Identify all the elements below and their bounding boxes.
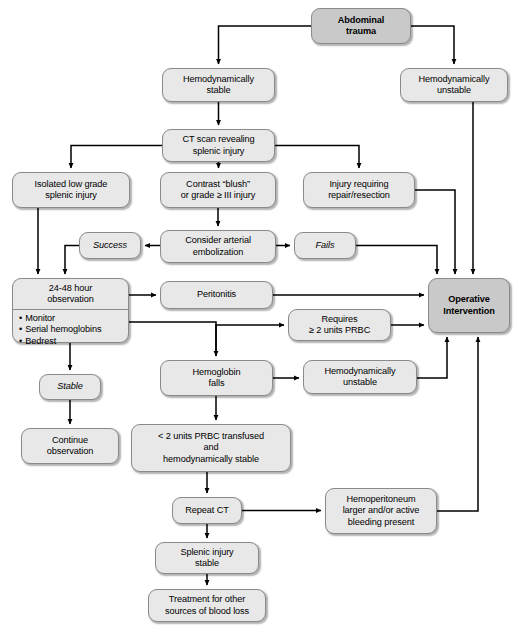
node-ct-scan[interactable]: CT scan revealing splenic injury: [162, 129, 275, 162]
node-repeat-ct[interactable]: Repeat CT: [172, 497, 242, 524]
node-contrast-blush[interactable]: Contrast “blush” or grade ≥ III injury: [160, 172, 276, 208]
node-consider-embolization[interactable]: Consider arterial embolization: [160, 230, 276, 263]
node-peritonitis[interactable]: Peritonitis: [160, 281, 273, 309]
node-stable-label: Stable: [57, 381, 82, 392]
node-hemodynamically-unstable-lower-label: Hemodynamically unstable: [324, 366, 395, 389]
edge-success-to-observation: [65, 246, 79, 275]
edge-trauma-to-stable: [219, 26, 312, 64]
node-hemoperitoneum[interactable]: Hemoperitoneum larger and/or active blee…: [325, 488, 437, 534]
bullet-item: Serial hemoglobins: [19, 324, 124, 335]
node-splenic-injury-stable-label: Splenic injury stable: [180, 547, 233, 570]
node-isolated-low-grade-label: Isolated low grade splenic injury: [35, 179, 108, 202]
node-fails-label: Fails: [316, 240, 335, 251]
node-fails[interactable]: Fails: [294, 232, 356, 259]
node-repeat-ct-label: Repeat CT: [185, 505, 229, 516]
edge-unstable-lower-to-operative: [417, 337, 447, 378]
flowchart-canvas: Abdominal traumaHemodynamically stableHe…: [0, 0, 520, 630]
node-requires-2-units[interactable]: Requires ≥ 2 units PRBC: [288, 309, 391, 341]
node-less-than-2-units-label: < 2 units PRBC transfused and hemodynami…: [158, 431, 264, 465]
node-consider-embolization-label: Consider arterial embolization: [185, 235, 251, 258]
node-hemoperitoneum-label: Hemoperitoneum larger and/or active blee…: [343, 494, 420, 528]
node-injury-requiring-repair[interactable]: Injury requiring repair/resection: [303, 172, 415, 208]
node-treatment-other[interactable]: Treatment for other sources of blood los…: [148, 589, 266, 622]
node-continue-observation-label: Continue observation: [47, 435, 93, 458]
node-requires-2-units-label: Requires ≥ 2 units PRBC: [309, 314, 370, 337]
node-stable[interactable]: Stable: [39, 374, 101, 400]
node-abdominal-trauma[interactable]: Abdominal trauma: [311, 8, 411, 44]
edge-hemoperitoneum-to-operative: [437, 337, 478, 511]
node-hemodynamically-stable[interactable]: Hemodynamically stable: [162, 68, 275, 102]
edge-trauma-to-unstable: [411, 26, 454, 64]
edge-injury-to-operative: [415, 190, 455, 274]
node-observation[interactable]: 24-48 hour observationMonitorSerial hemo…: [12, 278, 129, 343]
node-isolated-low-grade[interactable]: Isolated low grade splenic injury: [12, 172, 130, 208]
edge-hemoglobin-to-requires: [216, 325, 284, 356]
node-operative-intervention-label: Operative Intervention: [443, 294, 494, 317]
node-continue-observation[interactable]: Continue observation: [21, 428, 119, 464]
node-observation-title: 24-48 hour observation: [13, 279, 128, 310]
node-hemoglobin-falls-label: Hemoglobin falls: [192, 367, 240, 390]
node-hemodynamically-unstable-top[interactable]: Hemodynamically unstable: [400, 68, 508, 102]
edge-ct-to-isolated: [71, 146, 162, 169]
edge-ct-to-injury: [275, 146, 359, 169]
node-success-label: Success: [93, 240, 127, 251]
node-observation-bullets: MonitorSerial hemoglobinsBedrest: [13, 310, 128, 350]
node-hemodynamically-unstable-lower[interactable]: Hemodynamically unstable: [303, 360, 417, 394]
bullet-item: Bedrest: [19, 336, 124, 347]
node-abdominal-trauma-label: Abdominal trauma: [338, 15, 385, 38]
node-hemodynamically-unstable-top-label: Hemodynamically unstable: [418, 74, 489, 97]
node-splenic-injury-stable[interactable]: Splenic injury stable: [155, 542, 259, 574]
node-hemoglobin-falls[interactable]: Hemoglobin falls: [160, 360, 273, 396]
edge-observation-to-hemoglobin: [129, 322, 216, 356]
node-success[interactable]: Success: [79, 232, 141, 259]
node-less-than-2-units[interactable]: < 2 units PRBC transfused and hemodynami…: [131, 424, 291, 472]
edge-fails-to-operative: [356, 246, 437, 275]
bullet-item: Monitor: [19, 313, 124, 324]
node-treatment-other-label: Treatment for other sources of blood los…: [165, 594, 249, 617]
node-contrast-blush-label: Contrast “blush” or grade ≥ III injury: [181, 179, 255, 202]
node-ct-scan-label: CT scan revealing splenic injury: [182, 134, 254, 157]
node-injury-requiring-repair-label: Injury requiring repair/resection: [328, 179, 390, 202]
node-hemodynamically-stable-label: Hemodynamically stable: [183, 74, 254, 97]
node-peritonitis-label: Peritonitis: [197, 289, 236, 300]
node-operative-intervention[interactable]: Operative Intervention: [428, 278, 510, 333]
